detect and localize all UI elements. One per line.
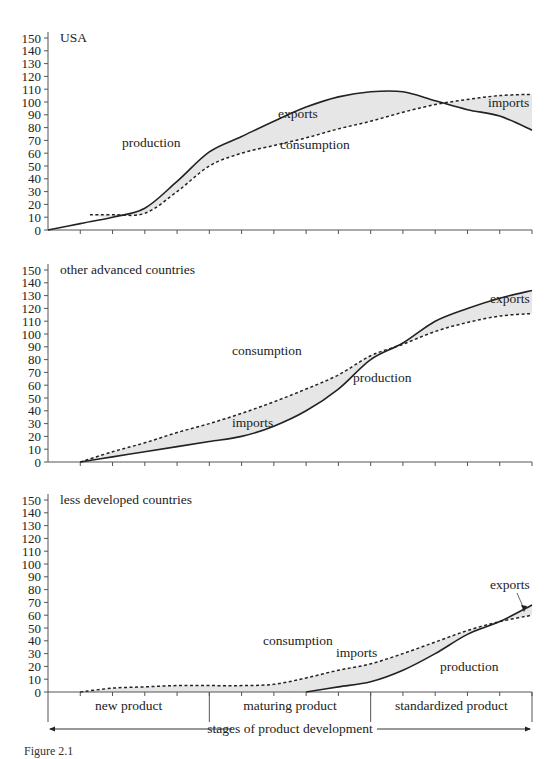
annotation-production: production	[440, 659, 499, 674]
y-tick-label: 110	[22, 544, 41, 559]
annotation-imports: imports	[336, 645, 377, 660]
y-tick-label: 30	[28, 646, 41, 661]
y-tick-label: 120	[22, 301, 42, 316]
y-tick-label: 130	[22, 518, 42, 533]
arrow-left-icon	[49, 727, 55, 732]
annotation-imports: imports	[488, 95, 529, 110]
y-tick-label: 120	[22, 69, 42, 84]
stage-label: maturing product	[243, 698, 337, 713]
y-tick-label: 130	[22, 288, 42, 303]
annotation-imports: imports	[232, 415, 273, 430]
y-tick-label: 150	[22, 493, 42, 508]
y-tick-label: 60	[28, 608, 41, 623]
trade-shaded-area	[80, 290, 532, 462]
y-tick-label: 140	[22, 505, 42, 520]
y-tick-label: 100	[22, 95, 42, 110]
panel-2: 0102030405060708090100110120130140150les…	[22, 492, 533, 700]
panel-title: USA	[60, 30, 87, 45]
y-tick-label: 110	[22, 314, 41, 329]
y-tick-label: 0	[35, 685, 42, 700]
y-tick-label: 30	[28, 416, 41, 431]
y-tick-label: 130	[22, 56, 42, 71]
y-tick-label: 120	[22, 531, 42, 546]
annotation-exports: exports	[278, 106, 318, 121]
annotation-exports: exports	[490, 291, 530, 306]
y-tick-label: 140	[22, 275, 42, 290]
y-tick-label: 50	[28, 621, 41, 636]
figure-caption: Figure 2.1	[24, 744, 73, 759]
y-tick-label: 100	[22, 557, 42, 572]
annotation-production: production	[353, 370, 412, 385]
y-tick-label: 90	[28, 569, 41, 584]
y-tick-label: 20	[28, 659, 41, 674]
annotation-production: production	[122, 135, 181, 150]
y-tick-label: 40	[28, 171, 41, 186]
y-tick-label: 10	[28, 442, 41, 457]
annotation-exports: exports	[490, 577, 530, 592]
y-tick-label: 20	[28, 429, 41, 444]
stage-label: new product	[95, 698, 162, 713]
stage-label: standardized product	[395, 698, 508, 713]
y-tick-label: 60	[28, 146, 41, 161]
annotation-consumption: consumption	[263, 633, 333, 648]
trade-shaded-area	[80, 605, 532, 692]
y-tick-label: 40	[28, 633, 41, 648]
y-tick-label: 30	[28, 184, 41, 199]
y-tick-label: 50	[28, 159, 41, 174]
y-tick-label: 90	[28, 339, 41, 354]
y-tick-label: 40	[28, 403, 41, 418]
y-tick-label: 70	[28, 133, 41, 148]
panel-title: other advanced countries	[60, 262, 195, 277]
panel-1: 0102030405060708090100110120130140150oth…	[22, 262, 533, 470]
y-tick-label: 90	[28, 107, 41, 122]
annotation-consumption: consumption	[232, 343, 302, 358]
consumption-line	[80, 314, 532, 462]
y-tick-label: 150	[22, 263, 42, 278]
y-tick-label: 80	[28, 120, 41, 135]
y-tick-label: 20	[28, 197, 41, 212]
y-tick-label: 10	[28, 210, 41, 225]
stages-axis-label: stages of product development	[207, 721, 373, 736]
y-tick-label: 10	[28, 672, 41, 687]
y-tick-label: 80	[28, 582, 41, 597]
panel-0: 0102030405060708090100110120130140150USA…	[22, 30, 533, 238]
stages-axis: new productmaturing productstandardized …	[48, 692, 532, 736]
y-tick-label: 100	[22, 327, 42, 342]
y-tick-label: 140	[22, 43, 42, 58]
y-tick-label: 0	[35, 455, 42, 470]
y-tick-label: 70	[28, 595, 41, 610]
y-tick-label: 60	[28, 378, 41, 393]
y-tick-label: 0	[35, 223, 42, 238]
panel-title: less developed countries	[60, 492, 192, 507]
y-tick-label: 150	[22, 31, 42, 46]
y-tick-label: 70	[28, 365, 41, 380]
arrow-right-icon	[525, 727, 531, 732]
y-tick-label: 80	[28, 352, 41, 367]
annotation-consumption: consumption	[280, 137, 350, 152]
y-tick-label: 50	[28, 391, 41, 406]
y-tick-label: 110	[22, 82, 41, 97]
